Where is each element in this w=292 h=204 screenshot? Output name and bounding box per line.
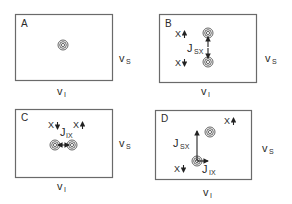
panel-a-frame [16,15,113,81]
svg-text:J: J [202,163,208,175]
svg-text:S: S [126,143,131,150]
svg-text:X: X [48,120,54,130]
svg-text:X: X [73,120,79,130]
j-sx-label: J SX [187,42,204,55]
svg-text:X: X [175,58,181,68]
svg-text:v: v [119,137,125,149]
svg-text:v: v [119,52,125,64]
j-ix-label: J IX [60,126,73,139]
x-spin-up-label: X [224,116,234,126]
svg-text:J: J [173,137,179,149]
j-sx-label: J SX [173,137,190,150]
panel-c: C X X J IX v S [16,110,132,194]
axis-label-vi: v I [57,180,66,193]
axis-label-vi: v I [201,85,210,98]
svg-text:S: S [126,58,131,65]
svg-text:I: I [64,91,66,98]
x-spin-up-label: X [73,120,83,130]
svg-text:X: X [174,164,180,174]
svg-text:v: v [201,85,207,97]
axis-label-vs: v S [119,52,131,65]
svg-text:J: J [187,42,193,54]
svg-text:v: v [262,142,268,154]
x-spin-down-label: X [48,120,58,130]
panel-b-letter: B [165,18,172,29]
axis-label-vs: v S [262,142,274,155]
x-spin-up-label: X [175,29,185,39]
panel-c-frame [16,110,113,178]
svg-text:X: X [175,29,181,39]
panel-b: B X X J SX v S [160,15,278,99]
svg-text:J: J [60,126,66,138]
svg-text:I: I [64,186,66,193]
axis-label-vs: v S [119,137,131,150]
svg-text:X: X [224,116,230,126]
svg-text:v: v [57,180,63,192]
x-spin-down-label: X [175,58,185,68]
svg-text:v: v [203,186,209,198]
panel-a-letter: A [21,18,28,29]
svg-text:SX: SX [180,143,190,150]
cross-peak-icon [58,40,68,50]
panel-c-letter: C [21,112,28,123]
cross-peak-icon [205,127,215,137]
x-spin-down-label: X [174,164,184,174]
svg-text:v: v [57,85,63,97]
panel-d-letter: D [161,113,168,124]
svg-text:S: S [269,148,274,155]
svg-text:v: v [265,52,271,64]
panel-a: A v S v I [16,15,132,99]
j-ix-label: J IX [202,163,216,176]
svg-text:IX: IX [66,132,73,139]
axis-label-vi: v I [57,85,66,98]
svg-text:I: I [210,192,212,199]
svg-text:IX: IX [209,169,216,176]
axis-label-vs: v S [265,52,277,65]
panel-d: D X X J SX J IX [156,111,275,200]
axis-label-vi: v I [203,186,212,199]
figure-canvas: A v S v I B X X J SX [0,0,292,204]
svg-text:I: I [208,91,210,98]
cross-peak-icon [203,28,213,38]
svg-text:SX: SX [194,48,204,55]
cross-peak-icon [203,57,213,67]
svg-text:S: S [272,58,277,65]
